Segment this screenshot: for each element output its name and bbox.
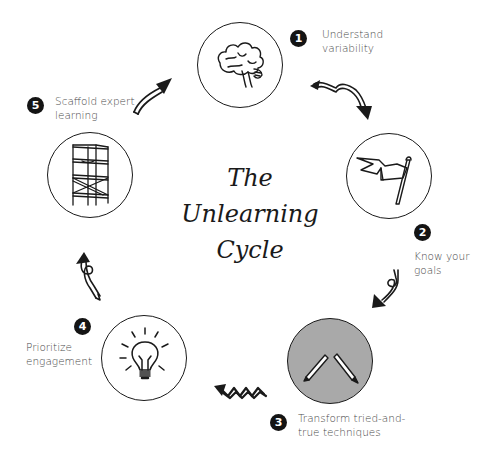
step-3-label: Transform tried-and- true techniques xyxy=(298,411,405,439)
step-5-label-line-1: Scaffold expert xyxy=(55,94,135,108)
step-5-label: Scaffold expert learning xyxy=(55,94,135,122)
title-line-3: Cycle xyxy=(170,232,330,268)
step-2-circle xyxy=(346,133,432,219)
step-3-label-line-2: true techniques xyxy=(298,425,405,439)
step-5-badge: 5 xyxy=(27,97,44,114)
step-4-label-line-2: engagement xyxy=(26,354,92,368)
step-1-circle xyxy=(197,22,283,108)
step-4-badge: 4 xyxy=(74,318,91,335)
step-2-badge: 2 xyxy=(414,224,431,241)
flag-icon xyxy=(347,134,433,220)
step-1-label-line-1: Understand xyxy=(322,27,383,41)
step-4-circle xyxy=(101,315,187,401)
step-1-label: Understand variability xyxy=(322,27,383,55)
arrow-3-to-4 xyxy=(212,380,270,402)
step-4-label: Prioritize engagement xyxy=(26,340,92,368)
step-3-circle xyxy=(287,318,373,404)
arrow-2-to-3 xyxy=(366,268,410,312)
step-1-badge: 1 xyxy=(290,30,307,47)
step-5-circle xyxy=(47,132,133,218)
lightbulb-icon xyxy=(102,316,188,402)
step-5-label-line-2: learning xyxy=(55,108,135,122)
step-4-label-line-1: Prioritize xyxy=(26,340,92,354)
step-3-badge: 3 xyxy=(270,414,287,431)
pencils-icon xyxy=(288,319,374,405)
title-line-2: Unlearning xyxy=(170,196,330,232)
diagram-title: The Unlearning Cycle xyxy=(170,160,330,268)
step-2-label-line-2: goals xyxy=(414,263,470,277)
arrow-4-to-5 xyxy=(74,250,110,306)
title-line-1: The xyxy=(170,160,330,196)
step-2-label: Know your goals xyxy=(414,249,470,277)
arrow-5-to-1 xyxy=(130,76,176,118)
step-1-label-line-2: variability xyxy=(322,41,383,55)
arrow-1-to-2 xyxy=(308,76,388,120)
step-3-label-line-1: Transform tried-and- xyxy=(298,411,405,425)
step-2-label-line-1: Know your xyxy=(414,249,470,263)
brain-icon xyxy=(198,23,284,109)
scaffold-icon xyxy=(48,133,134,219)
